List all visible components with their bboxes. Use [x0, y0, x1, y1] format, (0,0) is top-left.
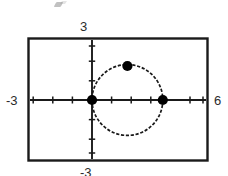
graph-figure: 3 -3 6 -3: [0, 0, 228, 176]
axis-label-ymax: 3: [80, 20, 87, 33]
marked-point-right-intercept: [158, 95, 168, 105]
axis-label-ymin: -3: [80, 166, 92, 176]
marked-point-top: [122, 61, 132, 71]
axis-label-xmin: -3: [6, 94, 18, 107]
marked-point-origin: [87, 95, 97, 105]
axis-label-xmax: 6: [214, 94, 221, 107]
coordinate-plot: [0, 0, 228, 176]
